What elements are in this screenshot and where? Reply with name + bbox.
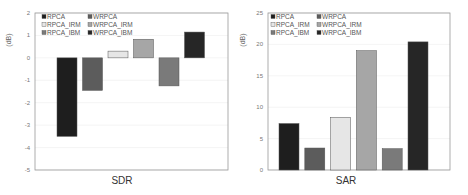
legend-label: WRPCA — [93, 13, 118, 20]
legend-swatch — [271, 15, 275, 19]
legend-label: RPCA — [47, 13, 66, 20]
y-tick-label: -1 — [25, 77, 31, 83]
legend-swatch — [88, 31, 92, 35]
y-tick-label: 1 — [27, 32, 31, 38]
y-tick-label: -4 — [25, 145, 31, 151]
legend-swatch — [42, 31, 46, 35]
chart-canvas: 210-1-2-3-4-5(dB)RPCAWRPCARPCA_IRMWRPCA_… — [0, 0, 468, 195]
legend-swatch — [88, 15, 92, 19]
y-axis-label: (dB) — [239, 33, 247, 46]
x-axis-label: SDR — [111, 175, 132, 186]
bar-rpca — [57, 58, 77, 137]
legend-label: RPCA_IBM — [276, 29, 309, 37]
bar-rpca-irm — [331, 117, 351, 170]
legend-swatch — [42, 23, 46, 27]
legend-label: RPCA_IBM — [47, 29, 80, 37]
legend-label: WRPCA — [322, 13, 347, 20]
legend-label: WRPCA_IRM — [93, 21, 133, 29]
y-tick-label: 20 — [256, 41, 263, 47]
legend-label: WRPCA_IBM — [93, 29, 132, 37]
y-tick-label: -3 — [25, 122, 31, 128]
y-tick-label: -2 — [25, 100, 31, 106]
bar-wrpca-irm — [356, 51, 376, 170]
y-tick-label: 5 — [260, 136, 264, 142]
legend-swatch — [317, 31, 321, 35]
legend-swatch — [271, 23, 275, 27]
y-tick-label: 15 — [256, 73, 263, 79]
legend-label: WRPCA_IRM — [322, 21, 362, 29]
y-axis-label: (dB) — [5, 33, 13, 46]
y-tick-label: 10 — [256, 104, 263, 110]
bar-wrpca — [83, 58, 103, 91]
bar-wrpca — [305, 148, 325, 170]
bar-wrpca-ibm — [408, 42, 428, 170]
legend-label: RPCA_IRM — [276, 21, 310, 29]
bar-rpca-ibm — [159, 58, 179, 86]
legend-label: RPCA — [276, 13, 295, 20]
legend-swatch — [88, 23, 92, 27]
bar-rpca-irm — [108, 51, 128, 58]
y-tick-label: 2 — [27, 10, 31, 16]
y-tick-label: 25 — [256, 10, 263, 16]
y-tick-label: 0 — [260, 167, 264, 173]
bar-rpca-ibm — [382, 149, 402, 170]
y-tick-label: -5 — [25, 167, 31, 173]
legend-swatch — [317, 15, 321, 19]
bar-rpca — [279, 124, 299, 170]
legend-label: WRPCA_IBM — [322, 29, 361, 37]
x-axis-label: SAR — [336, 175, 357, 186]
y-tick-label: 0 — [27, 55, 31, 61]
legend-swatch — [42, 15, 46, 19]
legend-label: RPCA_IRM — [47, 21, 81, 29]
legend-swatch — [271, 31, 275, 35]
legend-swatch — [317, 23, 321, 27]
bar-wrpca-irm — [134, 39, 154, 58]
bar-wrpca-ibm — [185, 32, 205, 58]
